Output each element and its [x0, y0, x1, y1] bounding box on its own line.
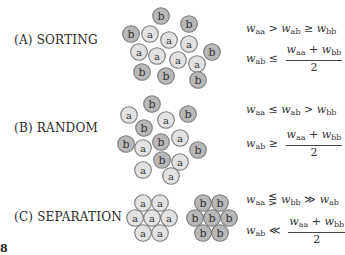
- svg-text:a: a: [166, 213, 172, 224]
- eq-term: w: [246, 224, 255, 237]
- svg-text:a: a: [194, 59, 200, 70]
- cell-b: b: [204, 210, 221, 227]
- fraction: waa + wbb 2: [286, 129, 343, 159]
- eq-term: w: [289, 215, 298, 228]
- cell-a: a: [170, 52, 187, 69]
- eq-operator: ⋚: [268, 193, 277, 206]
- cell-a: a: [161, 210, 178, 227]
- figure-number: 8: [0, 242, 8, 255]
- svg-text:a: a: [157, 198, 163, 209]
- cell-b: b: [212, 225, 229, 242]
- svg-text:a: a: [177, 133, 183, 144]
- cell-a: a: [144, 210, 161, 227]
- eq-sub: bb: [326, 27, 336, 36]
- svg-text:b: b: [199, 227, 206, 240]
- eq-term: w: [317, 103, 326, 116]
- svg-text:b: b: [194, 144, 201, 157]
- cell-b: b: [195, 225, 212, 242]
- eq-operator: ≪: [269, 224, 281, 237]
- eq-sub: bb: [290, 198, 300, 207]
- svg-text:a: a: [136, 47, 142, 58]
- cell-b: b: [181, 16, 198, 33]
- eq-denominator: 2: [310, 61, 317, 74]
- eq-operator: >: [304, 103, 313, 116]
- eq-term: w: [281, 22, 290, 35]
- svg-text:b: b: [208, 212, 215, 225]
- equation-sorting-average: wab ≤ waa + wbb 2: [246, 44, 342, 74]
- svg-text:b: b: [199, 197, 206, 210]
- cell-b: b: [187, 210, 204, 227]
- eq-sub: ab: [255, 229, 265, 238]
- svg-text:b: b: [208, 46, 215, 59]
- svg-text:a: a: [126, 110, 132, 121]
- cell-a: a: [161, 32, 178, 49]
- cell-b: b: [190, 72, 207, 89]
- eq-operator: +: [309, 128, 318, 141]
- eq-sub: ab: [255, 142, 265, 151]
- eq-term: w: [325, 215, 334, 228]
- eq-term: w: [246, 22, 255, 35]
- fraction: waa + wbb 2: [286, 44, 343, 74]
- svg-text:b: b: [157, 10, 164, 23]
- svg-text:b: b: [158, 154, 165, 167]
- svg-text:a: a: [149, 213, 155, 224]
- cell-b: b: [204, 44, 221, 61]
- svg-text:a: a: [163, 115, 169, 126]
- svg-text:b: b: [138, 66, 145, 79]
- eq-sub: bb: [326, 108, 336, 117]
- equation-random-inequality: waa ≤ wab > wbb: [246, 103, 336, 117]
- svg-text:b: b: [157, 136, 164, 149]
- eq-sub: ab: [291, 108, 301, 117]
- label-sorting: (A) SORTING: [14, 33, 98, 47]
- svg-text:a: a: [166, 35, 172, 46]
- eq-sub: aa: [255, 198, 265, 207]
- cell-a: a: [152, 225, 169, 242]
- svg-text:a: a: [175, 55, 181, 66]
- cell-a: a: [135, 140, 152, 157]
- svg-text:b: b: [194, 74, 201, 87]
- cell-a: a: [142, 26, 159, 43]
- eq-operator: ≤: [269, 52, 278, 65]
- eq-term: w: [246, 137, 255, 150]
- eq-operator: ≥: [304, 22, 313, 35]
- equation-sorting-inequality: waa > wab ≥ wbb: [246, 22, 336, 36]
- svg-text:a: a: [168, 171, 174, 182]
- eq-term: w: [246, 193, 255, 206]
- eq-sub: aa: [255, 108, 265, 117]
- cell-a: a: [163, 168, 180, 185]
- cell-b: b: [190, 142, 207, 159]
- cell-b: b: [153, 8, 170, 25]
- eq-term: w: [281, 193, 290, 206]
- fraction: waa + wbb 2: [288, 216, 345, 246]
- cell-a: a: [152, 195, 169, 212]
- cell-b: b: [153, 134, 170, 151]
- svg-text:b: b: [216, 197, 223, 210]
- cell-a: a: [127, 210, 144, 227]
- svg-text:b: b: [140, 122, 147, 135]
- cell-a: a: [135, 225, 152, 242]
- svg-text:a: a: [140, 198, 146, 209]
- svg-text:a: a: [147, 29, 153, 40]
- svg-text:b: b: [191, 212, 198, 225]
- eq-term: w: [320, 193, 329, 206]
- eq-term: w: [322, 43, 331, 56]
- cell-a: a: [181, 36, 198, 53]
- cell-a: a: [189, 56, 206, 73]
- cell-a: a: [135, 195, 152, 212]
- eq-sub: ab: [291, 27, 301, 36]
- cell-b: b: [158, 68, 175, 85]
- equation-separation-inequality: waa ⋚ wbb ≫ wab: [246, 193, 339, 207]
- svg-text:a: a: [186, 39, 192, 50]
- cell-b: b: [180, 106, 197, 123]
- eq-denominator: 2: [313, 233, 320, 246]
- eq-sub: bb: [331, 48, 341, 57]
- eq-term: w: [281, 103, 290, 116]
- eq-sub: aa: [255, 27, 265, 36]
- eq-term: w: [246, 103, 255, 116]
- eq-term: w: [322, 128, 331, 141]
- cell-b: b: [123, 26, 140, 43]
- label-separation: (C) SEPARATION: [14, 210, 122, 224]
- cell-b: b: [154, 152, 171, 169]
- cell-a: a: [149, 48, 166, 65]
- label-random: (B) RANDOM: [14, 121, 98, 135]
